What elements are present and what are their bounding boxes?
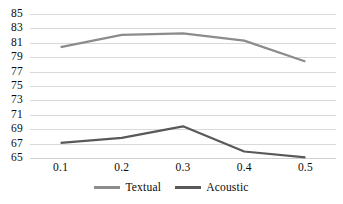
line-chart: 8583817977757371696765 0.10.20.30.40.5 T… (0, 0, 343, 204)
x-axis-tick-label: 0.3 (176, 162, 191, 174)
y-axis-tick-label: 85 (11, 8, 23, 20)
gridline (30, 158, 336, 159)
x-axis-tick-label: 0.2 (114, 162, 129, 174)
legend-line-icon (175, 186, 201, 189)
y-axis-tick-label: 79 (11, 51, 23, 63)
legend-label: Acoustic (206, 182, 248, 194)
x-axis-tick-label: 0.1 (53, 162, 68, 174)
series-line-textual (61, 33, 306, 61)
plot-area (30, 14, 336, 158)
y-axis-tick-label: 81 (11, 37, 23, 49)
y-axis-tick-label: 69 (11, 123, 23, 135)
y-axis-tick-label: 75 (11, 80, 23, 92)
y-axis-tick-label: 83 (11, 23, 23, 35)
y-axis-tick-label: 67 (11, 138, 23, 150)
x-axis-tick-label: 0.5 (298, 162, 313, 174)
y-axis-tick-label: 77 (11, 66, 23, 78)
x-axis-labels: 0.10.20.30.40.5 (30, 162, 336, 178)
legend-line-icon (94, 186, 120, 189)
x-axis-tick-label: 0.4 (237, 162, 252, 174)
series-layer (30, 14, 336, 158)
legend-item-textual[interactable]: Textual (94, 182, 161, 194)
legend-label: Textual (125, 182, 161, 194)
legend-item-acoustic[interactable]: Acoustic (175, 182, 248, 194)
series-line-acoustic (61, 126, 306, 157)
y-axis-tick-label: 73 (11, 95, 23, 107)
chart-legend: TextualAcoustic (0, 182, 343, 194)
y-axis-tick-label: 71 (11, 109, 23, 121)
y-axis-labels: 8583817977757371696765 (0, 14, 28, 158)
y-axis-tick-label: 65 (11, 152, 23, 164)
